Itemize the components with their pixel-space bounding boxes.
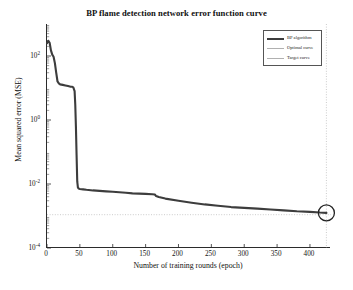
x-axis-major-ticks bbox=[47, 244, 310, 248]
x-tick-label: 50 bbox=[75, 250, 82, 258]
x-tick-label: 150 bbox=[139, 250, 150, 258]
x-tick-label: 350 bbox=[271, 250, 282, 258]
y-tick-label: 10-4 bbox=[28, 244, 40, 252]
x-tick-label: 100 bbox=[106, 250, 117, 258]
legend-swatch-bp-algorithm bbox=[267, 35, 284, 41]
legend-swatch-optimal-curve bbox=[267, 45, 284, 51]
legend-item-bp-algorithm: BP algorithm bbox=[266, 33, 319, 43]
legend: BP algorithm Optimal curve Target curve bbox=[263, 30, 322, 66]
y-tick-label: 102 bbox=[30, 52, 40, 60]
legend-item-optimal-curve: Optimal curve bbox=[266, 43, 319, 53]
data-series-group bbox=[47, 41, 326, 213]
y-tick-label: 100 bbox=[30, 116, 40, 124]
x-tick-label: 0 bbox=[44, 250, 48, 258]
x-tick-label: 200 bbox=[172, 250, 183, 258]
legend-label-bp-algorithm: BP algorithm bbox=[287, 36, 311, 41]
legend-item-target-curve: Target curve bbox=[266, 53, 319, 63]
x-tick-label: 400 bbox=[304, 250, 315, 258]
x-tick-label: 250 bbox=[205, 250, 216, 258]
y-axis-tick-labels: 10210010-210-4 bbox=[0, 24, 44, 248]
legend-swatch-target-curve bbox=[267, 55, 284, 61]
chart-title: BP flame detection network error functio… bbox=[0, 8, 353, 18]
series-line-bp-algorithm bbox=[47, 41, 326, 213]
legend-label-target-curve: Target curve bbox=[287, 56, 310, 61]
x-tick-label: 300 bbox=[238, 250, 249, 258]
legend-label-optimal-curve: Optimal curve bbox=[287, 46, 313, 51]
figure-container: BP flame detection network error functio… bbox=[0, 0, 353, 290]
x-axis-label: Number of training rounds (epoch) bbox=[46, 261, 330, 270]
y-tick-label: 10-2 bbox=[28, 180, 40, 188]
y-axis-minor-ticks bbox=[47, 25, 49, 238]
